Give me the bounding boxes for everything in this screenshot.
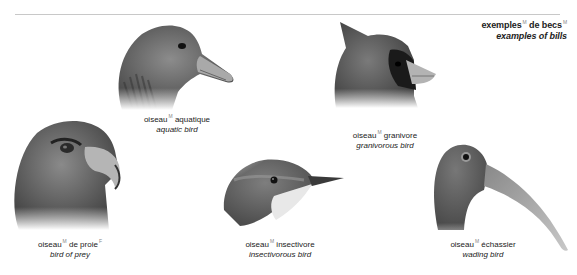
caption-fr-2: de proie	[69, 240, 98, 249]
top-rule	[15, 14, 560, 15]
bird-of-prey-illustration	[5, 115, 125, 230]
caption-fr: oiseau	[450, 240, 474, 249]
caption-en: granivorous bird	[330, 141, 440, 151]
caption-wading-bird: oiseauM échassier wading bird	[428, 236, 538, 260]
gender-mark: M	[63, 238, 67, 244]
caption-fr: oiseau	[245, 240, 269, 249]
caption-fr-2: granivore	[384, 131, 417, 140]
caption-en: insectivorous bird	[225, 250, 335, 260]
gender-mark: M	[270, 238, 274, 244]
gender-mark: M	[169, 113, 173, 119]
caption-bird-of-prey: oiseauM de proieF bird of prey	[15, 236, 125, 260]
caption-fr: oiseau	[353, 131, 377, 140]
caption-en: wading bird	[428, 250, 538, 260]
caption-en: aquatic bird	[122, 125, 232, 135]
gender-mark: M	[563, 19, 567, 25]
caption-insectivorous-bird: oiseauM insectivore insectivorous bird	[225, 236, 335, 260]
caption-en: bird of prey	[15, 250, 125, 260]
title-french: exemplesM de becsM	[481, 17, 567, 31]
granivorous-bird-illustration	[328, 20, 440, 108]
caption-granivorous-bird: oiseauM granivore granivorous bird	[330, 127, 440, 151]
title-fr-word1: exemples	[481, 20, 521, 30]
title-fr-word2: de becs	[529, 20, 562, 30]
gender-mark: M	[475, 238, 479, 244]
caption-fr-2: aquatique	[175, 115, 210, 124]
caption-fr: oiseau	[144, 115, 168, 124]
caption-fr-2: échassier	[481, 240, 515, 249]
gender-mark: M	[523, 19, 527, 25]
gender-mark: F	[99, 238, 102, 244]
caption-aquatic-bird: oiseauM aquatique aquatic bird	[122, 111, 232, 135]
title-english: examples of bills	[481, 31, 567, 42]
caption-fr-2: insectivore	[276, 240, 314, 249]
section-title: exemplesM de becsM examples of bills	[481, 17, 567, 42]
insectivorous-bird-illustration	[220, 150, 345, 228]
aquatic-bird-illustration	[112, 22, 237, 110]
caption-fr: oiseau	[38, 240, 62, 249]
gender-mark: M	[377, 129, 381, 135]
